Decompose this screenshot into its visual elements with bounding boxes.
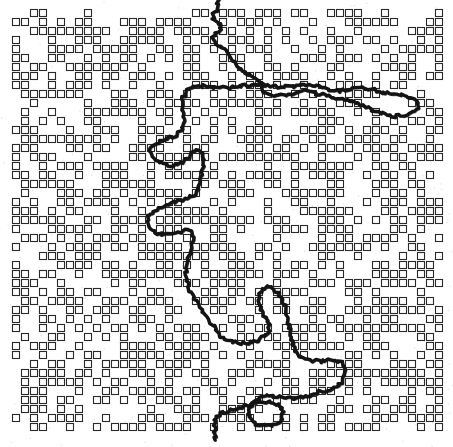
percolation-figure: Percolation cluster lattice with hull wa… bbox=[0, 0, 453, 447]
occupied-site-lattice bbox=[0, 0, 453, 447]
